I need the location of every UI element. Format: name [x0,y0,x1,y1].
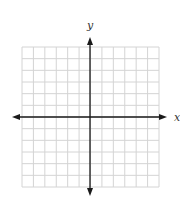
x-axis-label: x [174,111,180,124]
y-axis-label: y [86,19,94,32]
x-axis-left-arrow-icon [12,114,20,120]
x-axis-right-arrow-icon [159,114,167,120]
y-axis-down-arrow-icon [87,188,93,196]
coordinate-plane: y x [0,0,180,205]
y-axis-up-arrow-icon [87,37,93,45]
